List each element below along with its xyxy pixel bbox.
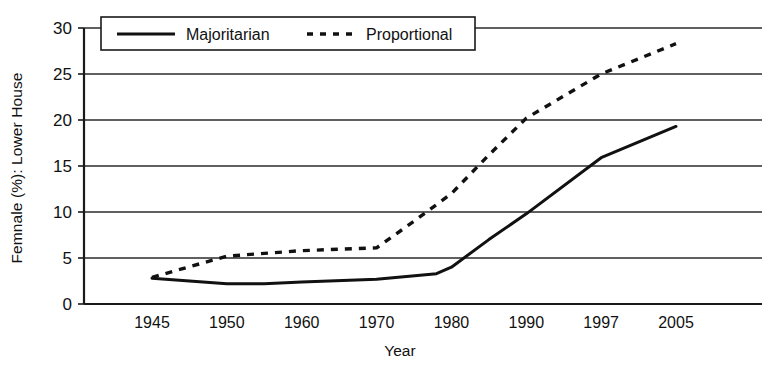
x-axis-title: Year bbox=[384, 342, 415, 359]
y-tick-label-0: 0 bbox=[63, 295, 72, 314]
chart-figure: 302520151050 194519501960197019801990199… bbox=[0, 0, 776, 381]
y-tick-label-25: 25 bbox=[53, 65, 72, 84]
x-tick-label-1960: 1960 bbox=[284, 314, 320, 331]
line-chart-canvas: 302520151050 194519501960197019801990199… bbox=[0, 0, 776, 381]
x-tick-label-1970: 1970 bbox=[359, 314, 395, 331]
y-gridlines bbox=[84, 28, 762, 258]
series-line-majoritarian bbox=[152, 126, 676, 283]
x-tick-label-1980: 1980 bbox=[434, 314, 470, 331]
x-tick-label-1950: 1950 bbox=[209, 314, 245, 331]
x-tick-label-2005: 2005 bbox=[658, 314, 694, 331]
y-tick-labels: 302520151050 bbox=[53, 19, 72, 314]
x-tick-labels: 19451950196019701980199019972005 bbox=[134, 314, 694, 331]
x-tick-label-1997: 1997 bbox=[583, 314, 619, 331]
x-tick-label-1945: 1945 bbox=[134, 314, 170, 331]
y-tick-label-30: 30 bbox=[53, 19, 72, 38]
y-axis-title: Femnale (%): Lower House bbox=[8, 72, 25, 263]
legend: Majoritarian Proportional bbox=[101, 17, 475, 50]
y-tick-label-10: 10 bbox=[53, 203, 72, 222]
legend-label-majoritarian: Majoritarian bbox=[186, 26, 270, 43]
y-tick-label-20: 20 bbox=[53, 111, 72, 130]
y-tick-label-5: 5 bbox=[63, 249, 72, 268]
x-tick-label-1990: 1990 bbox=[508, 314, 544, 331]
legend-label-proportional: Proportional bbox=[366, 26, 452, 43]
y-tick-label-15: 15 bbox=[53, 157, 72, 176]
